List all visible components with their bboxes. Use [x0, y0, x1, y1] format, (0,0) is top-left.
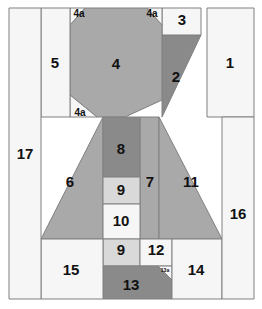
patch-label-4: 4	[112, 55, 121, 72]
patch-label-4a: 4a	[146, 8, 158, 19]
patch-label-10: 10	[113, 212, 130, 229]
patch-label-5: 5	[51, 54, 59, 71]
patch-label-9: 9	[117, 241, 125, 258]
patch-label-15: 15	[63, 261, 80, 278]
patch-label-12: 12	[148, 241, 165, 258]
patch-label-6: 6	[66, 173, 74, 190]
block-diagram-canvas: 12344a4a4a5678910119121313a14151617	[0, 0, 262, 309]
patch-label-16: 16	[230, 205, 247, 222]
patch-label-13: 13	[123, 276, 140, 293]
patch-label-4a: 4a	[74, 107, 86, 118]
patch-label-7: 7	[146, 173, 154, 190]
patch-label-13a: 13a	[161, 267, 170, 273]
patch-label-14: 14	[188, 261, 205, 278]
patchwork-block-svg: 12344a4a4a5678910119121313a14151617	[0, 0, 262, 309]
patch-label-2: 2	[172, 68, 180, 85]
patch-label-17: 17	[17, 145, 34, 162]
patch-label-8: 8	[117, 140, 125, 157]
patch-label-3: 3	[178, 11, 186, 28]
patch-label-4a: 4a	[73, 8, 85, 19]
patch-label-11: 11	[183, 173, 199, 190]
patch-label-9: 9	[117, 181, 125, 198]
patch-label-1: 1	[226, 54, 234, 71]
